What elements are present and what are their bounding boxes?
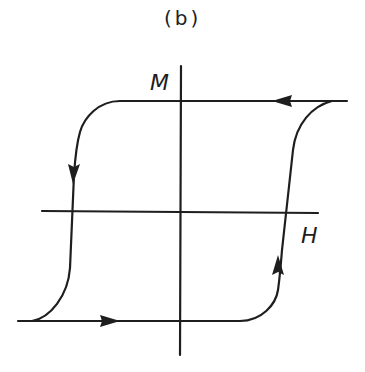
panel-label: (b) [164, 8, 201, 28]
hysteresis-loop-figure: (b) M H [0, 0, 365, 372]
h-axis [42, 211, 318, 213]
arrow-left-icon [272, 95, 292, 107]
arrow-down-icon [68, 164, 80, 184]
ascending-branch [240, 101, 332, 321]
arrow-right-icon [100, 315, 120, 327]
hysteresis-diagram [0, 0, 365, 372]
m-axis [180, 66, 181, 355]
m-axis-label: M [150, 72, 169, 94]
h-axis-label: H [301, 225, 318, 247]
